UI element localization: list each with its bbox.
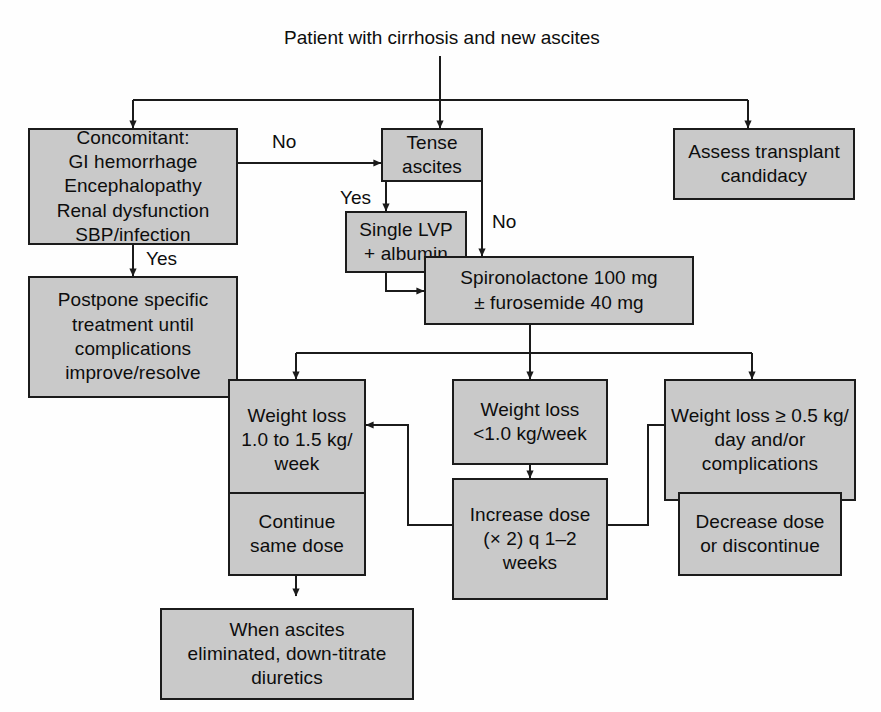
flowchart-canvas: No --> Tense ascites left side --> Yes -… xyxy=(0,0,881,712)
node-spironolactone[interactable]: Spironolactone 100 mg ± furosemide 40 mg xyxy=(424,256,694,325)
node-downtitrate-diuretics[interactable]: When ascites eliminated, down-titrate di… xyxy=(160,608,414,700)
node-weight-loss-moderate[interactable]: Weight loss 1.0 to 1.5 kg/ week xyxy=(228,379,366,501)
edge-label-tense-yes: Yes xyxy=(340,188,371,207)
edge-label-concomitant-no: No xyxy=(272,132,296,151)
node-weight-loss-high[interactable]: Weight loss ≥ 0.5 kg/ day and/or complic… xyxy=(664,379,856,501)
edge-label-tense-no: No xyxy=(492,212,516,231)
diagram-title: Patient with cirrhosis and new ascites xyxy=(242,27,642,50)
node-tense-ascites[interactable]: Tense ascites xyxy=(381,128,483,182)
node-weight-loss-low[interactable]: Weight loss <1.0 kg/week xyxy=(452,379,608,465)
edge-increase-to-wl-mid xyxy=(366,425,452,525)
node-assess-transplant[interactable]: Assess transplant candidacy xyxy=(673,128,855,200)
node-decrease-dose[interactable]: Decrease dose or discontinue xyxy=(678,492,842,576)
node-increase-dose[interactable]: Increase dose (× 2) q 1–2 weeks xyxy=(452,478,608,600)
edge-label-concomitant-yes: Yes xyxy=(146,249,177,268)
node-postpone[interactable]: Postpone specific treatment until compli… xyxy=(28,276,238,398)
node-continue-same-dose[interactable]: Continue same dose xyxy=(228,492,366,576)
node-concomitant[interactable]: Concomitant: GI hemorrhage Encephalopath… xyxy=(28,128,238,245)
